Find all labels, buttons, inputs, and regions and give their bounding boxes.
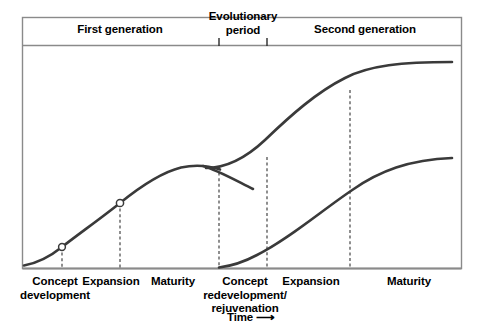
product-lifecycle-figure: First generation Evolutionary period Sec… (0, 0, 482, 333)
curve-first-generation (24, 166, 220, 266)
marker-concept-to-expansion (59, 244, 66, 251)
curve-second-generation-lower (219, 158, 452, 268)
marker-expansion-to-maturity (116, 199, 123, 206)
x-axis-title: Time ⟶ (196, 311, 306, 325)
axis-label-maturity-2: Maturity (366, 275, 452, 289)
chart-frame (23, 18, 462, 269)
curve-first-generation-decline (203, 166, 253, 189)
band-label-second-generation: Second generation (300, 23, 430, 37)
band-label-evolutionary-period: Evolutionary period (193, 10, 293, 37)
arrow-right-icon: ⟶ (256, 312, 275, 323)
x-axis-title-text: Time (227, 311, 253, 325)
curve-second-generation-upper (206, 62, 452, 168)
axis-label-expansion-2: Expansion (268, 275, 354, 289)
band-label-first-generation: First generation (60, 23, 180, 37)
